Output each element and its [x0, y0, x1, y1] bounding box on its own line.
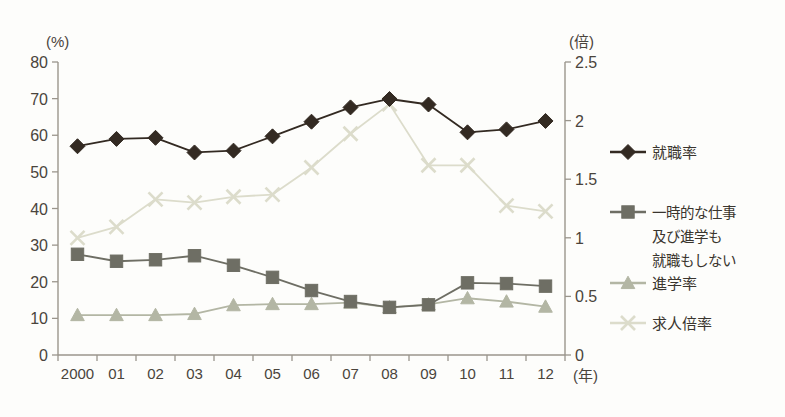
marker-diamond [343, 100, 358, 115]
legend-label: 進学率 [652, 275, 697, 292]
marker-square [422, 299, 434, 311]
x-axis-unit: (年) [573, 367, 598, 384]
legend-label: 求人倍率 [652, 315, 712, 332]
y-tick-label-right: 1.5 [575, 171, 597, 188]
legend-label: 一時的な仕事 [652, 205, 736, 221]
y-tick-label-right: 2 [575, 113, 584, 130]
y-tick-label-left: 30 [30, 237, 48, 254]
marker-diamond [187, 145, 202, 160]
legend-item-3[interactable]: 進学率 [610, 275, 697, 292]
x-tick-label: 2000 [61, 365, 94, 382]
y-tick-label-right: 0 [575, 347, 584, 364]
y-tick-label-right: 2.5 [575, 54, 597, 71]
marker-square [227, 259, 239, 271]
marker-diamond [382, 91, 397, 106]
marker-square [539, 280, 551, 292]
marker-cross [305, 160, 319, 174]
marker-square [500, 277, 512, 289]
x-tick-label: 01 [108, 365, 125, 382]
marker-diamond [304, 114, 319, 129]
marker-triangle [461, 291, 475, 303]
legend-item-1[interactable]: 就職率 [610, 144, 697, 161]
legend-label: 就職率 [652, 144, 697, 161]
marker-diamond [70, 139, 85, 154]
marker-square [71, 248, 83, 260]
y-tick-label-right: 0.5 [575, 288, 597, 305]
marker-diamond [226, 143, 241, 158]
marker-square [461, 277, 473, 289]
x-tick-label: 03 [186, 365, 203, 382]
marker-diamond [265, 129, 280, 144]
y-tick-label-left: 70 [30, 91, 48, 108]
marker-cross [71, 231, 85, 245]
marker-square [188, 250, 200, 262]
y-axis-unit-right: (倍) [569, 33, 594, 50]
marker-square [266, 271, 278, 283]
x-tick-label: 09 [420, 365, 437, 382]
marker-square [622, 206, 634, 218]
chart-container: 01020304050607080(%)00.511.522.5(倍)20000… [0, 0, 785, 417]
marker-diamond [460, 125, 475, 140]
marker-diamond [109, 131, 124, 146]
marker-diamond [148, 130, 163, 145]
x-tick-label: 08 [381, 365, 398, 382]
x-tick-label: 07 [342, 365, 359, 382]
marker-diamond [499, 122, 514, 137]
y-tick-label-left: 40 [30, 201, 48, 218]
legend-item-4[interactable]: 求人倍率 [610, 315, 712, 332]
y-tick-label-left: 20 [30, 274, 48, 291]
x-tick-label: 10 [459, 365, 476, 382]
y-tick-label-left: 60 [30, 127, 48, 144]
y-axis-unit-left: (%) [46, 33, 69, 50]
x-tick-label: 04 [225, 365, 242, 382]
y-tick-label-left: 10 [30, 310, 48, 327]
legend-label: 就職もしない [652, 253, 736, 269]
y-tick-label-left: 80 [30, 54, 48, 71]
marker-diamond [538, 113, 553, 128]
x-tick-label: 02 [147, 365, 164, 382]
marker-square [305, 284, 317, 296]
y-tick-label-left: 0 [39, 347, 48, 364]
marker-cross [110, 220, 124, 234]
x-tick-label: 11 [499, 365, 515, 382]
y-tick-label-right: 1 [575, 230, 584, 247]
y-tick-label-left: 50 [30, 164, 48, 181]
marker-cross [344, 127, 358, 141]
marker-diamond [421, 97, 436, 112]
x-tick-label: 05 [264, 365, 281, 382]
legend-item-2[interactable]: 一時的な仕事及び進学も就職もしない [610, 205, 736, 269]
series-1 [70, 91, 553, 159]
marker-square [149, 254, 161, 266]
line-chart: 01020304050607080(%)00.511.522.5(倍)20000… [0, 0, 785, 417]
x-tick-label: 06 [303, 365, 320, 382]
marker-diamond [621, 145, 636, 160]
marker-square [383, 301, 395, 313]
legend-label: 及び進学も [652, 229, 722, 245]
marker-square [110, 255, 122, 267]
x-tick-label: 12 [537, 365, 554, 382]
marker-square [344, 295, 356, 307]
